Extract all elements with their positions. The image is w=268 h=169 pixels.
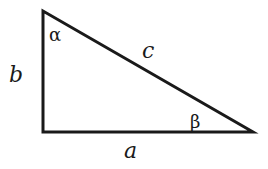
side-label-c: c xyxy=(142,38,154,63)
side-label-a: a xyxy=(124,138,137,163)
angle-label-beta: β xyxy=(190,111,200,132)
triangle-outline xyxy=(43,11,253,132)
right-triangle-diagram: b a c α β xyxy=(0,0,268,169)
side-label-b: b xyxy=(9,62,23,87)
angle-label-alpha: α xyxy=(49,24,61,45)
